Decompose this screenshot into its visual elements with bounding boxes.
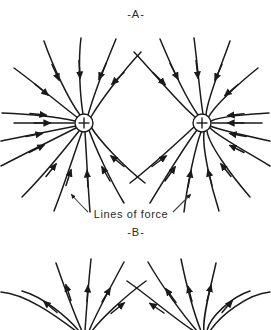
charge-a-right bbox=[193, 114, 211, 132]
diagram-background bbox=[0, 0, 271, 330]
field-diagram-svg: -A- bbox=[0, 0, 271, 330]
figure-lines-of-force: -A- bbox=[0, 0, 271, 330]
panel-a-label: -A- bbox=[127, 8, 145, 20]
panel-b-label: -B- bbox=[127, 226, 145, 238]
charge-a-left bbox=[75, 114, 93, 132]
lines-of-force-label: Lines of force bbox=[94, 208, 168, 220]
